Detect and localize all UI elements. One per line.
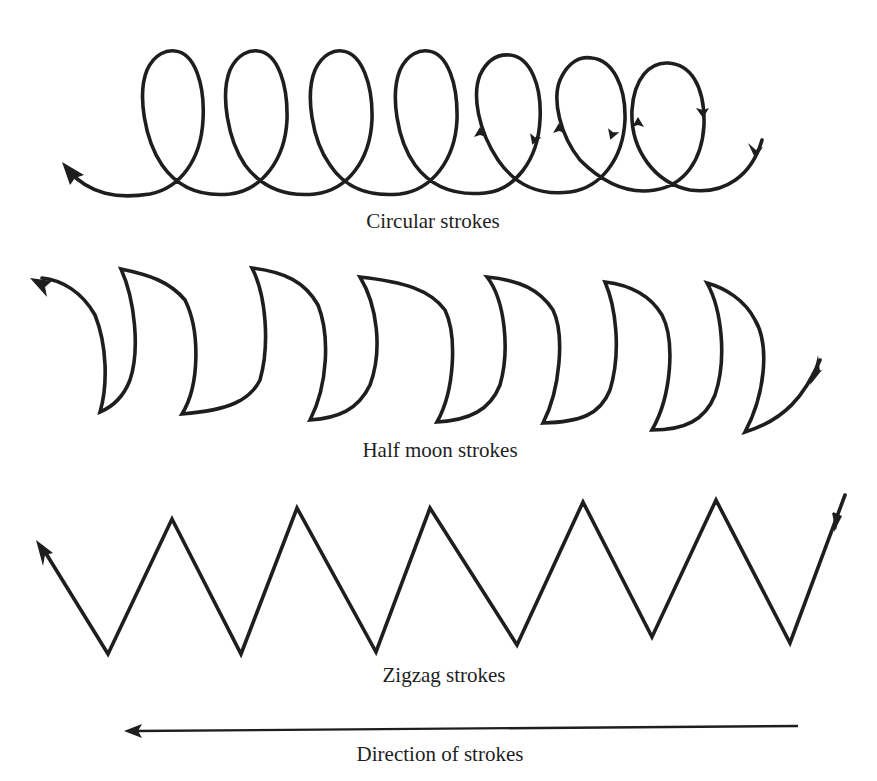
half-moon-strokes-label: Half moon strokes (362, 438, 517, 463)
stroke-diagram: Circular strokes Half moon strokes Zigza… (0, 0, 877, 781)
zigzag-stroke-path (42, 495, 845, 654)
half-moon-strokes-figure (30, 268, 822, 432)
circular-strokes-label: Circular strokes (366, 209, 500, 234)
end-arrowhead-icon (30, 278, 52, 297)
zigzag-strokes-label: Zigzag strokes (382, 663, 505, 688)
direction-line (135, 726, 798, 731)
half-moon-stroke-path (42, 268, 820, 432)
direction-arrow (124, 724, 798, 738)
down-arrowhead-icon (605, 128, 620, 142)
circular-strokes-figure (62, 51, 763, 196)
zigzag-strokes-figure (36, 495, 845, 654)
circular-stroke-path (68, 51, 762, 196)
direction-of-strokes-label: Direction of strokes (357, 742, 524, 767)
